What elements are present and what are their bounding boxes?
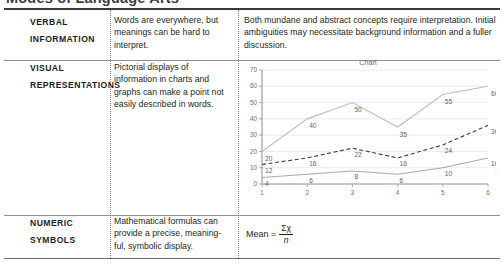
chart-point-label: 20 [265,155,273,162]
x-axis-tick-label: 3 [351,189,355,196]
chart-point-label: 60 [491,90,496,97]
row-label-line1: VERBAL [30,14,104,31]
row-label-line2: REPRESENTATIONS [30,77,104,94]
column-divider-2 [238,10,239,258]
row-label-line2: SYMBOLS [30,232,104,249]
chart-point-label: 4 [265,180,269,187]
chart-point-label: 35 [400,131,408,138]
y-axis-tick-label: 30 [250,131,258,138]
row-label-line2: INFORMATION [30,31,104,48]
chart-point-label: 55 [445,98,453,105]
chart-point-label: 16 [400,160,408,167]
x-axis-tick-label: 5 [441,189,445,196]
chart-point-label: 40 [309,122,317,129]
formula-lead-text: Mean = [246,229,276,239]
formula-numerator: Σχ [279,224,293,234]
chart-point-label: 36 [491,128,496,135]
chart-point-label: 24 [445,147,453,154]
row-description-verbal-information: Words are everywhere, but meanings can b… [114,14,230,51]
y-axis-tick-label: 60 [250,82,258,89]
row-label-visual-representations: VISUAL REPRESENTATIONS [30,60,104,94]
y-axis-tick-label: 70 [250,66,258,73]
y-axis-tick-label: 20 [250,148,258,155]
formula-denominator: n [282,235,291,245]
chart-point-label: 22 [354,151,362,158]
mean-formula: Mean = Σχ n [246,224,293,244]
chart-canvas: 0102030405060701234562040503555601216221… [240,64,496,204]
row-label-numeric-symbols: NUMERIC SYMBOLS [30,215,104,249]
chart-point-label: 8 [354,173,358,180]
page-heading-cutoff: Modes of Language Arts [6,0,179,8]
chart-point-label: 10 [445,170,453,177]
y-axis-tick-label: 50 [250,99,258,106]
row-description-numeric-symbols: Mathematical formulas can provide a prec… [114,215,230,252]
chart-point-label: 16 [309,160,317,167]
column-divider-1 [110,10,111,258]
formula-fraction: Σχ n [279,224,293,244]
chart-point-label: 12 [265,167,273,174]
bottom-horizontal-rule [4,258,500,259]
y-axis-tick-label: 0 [253,180,257,187]
line-chart: Chart 0102030405060701234562040503555601… [240,58,496,204]
x-axis-tick-label: 1 [260,189,264,196]
row-description-visual-representations: Pictorial displays of information in cha… [114,61,230,111]
verbal-example-text: Both mundane and abstract concepts requi… [244,14,496,51]
x-axis-tick-label: 4 [396,189,400,196]
y-axis-tick-label: 40 [250,115,258,122]
chart-point-label: 16 [491,160,496,167]
y-axis-tick-label: 10 [250,164,258,171]
chart-point-label: 6 [309,177,313,184]
row-label-line1: NUMERIC [30,215,104,232]
row-label-line1: VISUAL [30,60,104,77]
chart-series-line-2 [262,125,488,164]
edge-watermark: ||| [488,168,500,234]
page-root: Modes of Language Arts VERBAL INFORMATIO… [0,0,504,266]
chart-point-label: 6 [400,177,404,184]
row-label-verbal-information: VERBAL INFORMATION [30,14,104,48]
x-axis-tick-label: 2 [305,189,309,196]
chart-point-label: 50 [354,106,362,113]
